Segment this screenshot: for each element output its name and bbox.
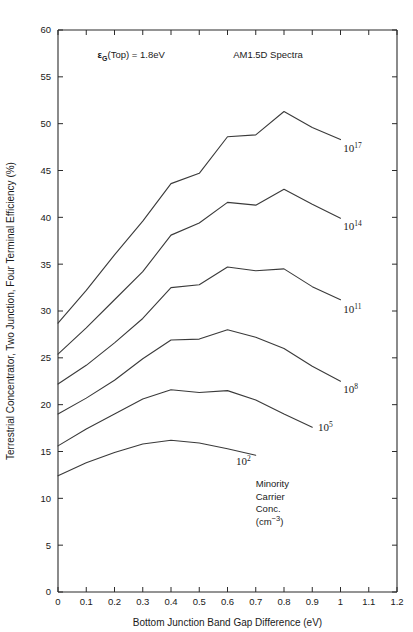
x-tick-label: 1.2: [390, 596, 403, 607]
x-tick-label: 0.7: [249, 596, 262, 607]
series-label-exponent: 5: [329, 420, 333, 429]
x-tick-label: 1: [338, 596, 343, 607]
curve-10^5: [58, 390, 312, 446]
x-tick-label: 0.9: [306, 596, 319, 607]
x-tick-label: 0.4: [164, 596, 177, 607]
legend-line-1: Minority: [256, 478, 290, 489]
legend-units-tail: ): [280, 516, 283, 527]
series-label-base: 10: [236, 455, 248, 467]
top-gap-annotation: εG(Top) = 1.8eV: [98, 49, 166, 62]
legend-units-base: (cm: [256, 516, 272, 527]
series-label-10^8: 108: [343, 382, 358, 395]
series-label-10^2: 102: [236, 454, 251, 467]
legend-units: (cm−3): [256, 514, 284, 527]
x-tick-label: 0.1: [80, 596, 93, 607]
x-tick-label: 0.8: [277, 596, 290, 607]
y-tick-label: 60: [40, 24, 51, 35]
y-tick-label: 0: [46, 586, 51, 597]
series-label-exponent: 14: [354, 219, 362, 228]
legend-line-2: Carrier: [256, 491, 285, 502]
x-tick-label: 0.6: [221, 596, 234, 607]
series-label-exponent: 8: [354, 382, 358, 391]
y-tick-label: 5: [46, 540, 51, 551]
x-axis-title: Bottom Junction Band Gap Difference (eV): [133, 617, 322, 628]
x-tick-label: 0.2: [108, 596, 121, 607]
legend-units-exponent: −3: [272, 514, 281, 523]
y-tick-label: 45: [40, 165, 51, 176]
chart-series-labels: 101710141011108105102: [236, 141, 362, 467]
series-label-base: 10: [343, 383, 355, 395]
series-label-10^17: 1017: [343, 141, 362, 154]
series-label-exponent: 11: [354, 302, 361, 311]
chart-figure: 05101520253035404550556000.10.20.30.40.5…: [0, 0, 413, 632]
y-tick-label: 35: [40, 259, 51, 270]
curve-10^11: [58, 267, 341, 384]
y-tick-label: 15: [40, 446, 51, 457]
y-axis-title: Terrestrial Concentrator, Two Junction, …: [5, 162, 16, 460]
curve-10^8: [58, 330, 341, 414]
y-tick-label: 30: [40, 305, 51, 316]
series-label-exponent: 2: [247, 454, 251, 463]
x-tick-label: 1.1: [362, 596, 375, 607]
chart-axis-titles: Bottom Junction Band Gap Difference (eV)…: [5, 162, 322, 628]
x-tick-label: 0: [55, 596, 60, 607]
series-label-10^11: 1011: [343, 302, 361, 315]
x-tick-label: 0.5: [193, 596, 206, 607]
chart-curves: [58, 111, 341, 475]
y-tick-label: 55: [40, 71, 51, 82]
y-tick-label: 40: [40, 212, 51, 223]
y-tick-label: 50: [40, 118, 51, 129]
y-tick-label: 10: [40, 493, 51, 504]
chart-axes: 05101520253035404550556000.10.20.30.40.5…: [40, 24, 403, 607]
series-label-base: 10: [343, 142, 355, 154]
x-tick-label: 0.3: [136, 596, 149, 607]
series-label-base: 10: [343, 303, 355, 315]
series-label-base: 10: [343, 220, 355, 232]
curve-10^17: [58, 111, 341, 323]
series-label-base: 10: [318, 421, 330, 433]
curve-10^2: [58, 440, 256, 476]
top-gap-annotation-text: (Top) = 1.8eV: [108, 49, 166, 60]
y-tick-label: 20: [40, 399, 51, 410]
spectra-annotation: AM1.5D Spectra: [233, 49, 303, 60]
efficiency-line-chart: 05101520253035404550556000.10.20.30.40.5…: [0, 0, 413, 632]
legend-line-3: Conc.: [256, 503, 281, 514]
series-label-exponent: 17: [354, 141, 362, 150]
curve-10^14: [58, 189, 341, 354]
y-tick-label: 25: [40, 352, 51, 363]
series-label-10^5: 105: [318, 420, 333, 433]
series-label-10^14: 1014: [343, 219, 362, 232]
